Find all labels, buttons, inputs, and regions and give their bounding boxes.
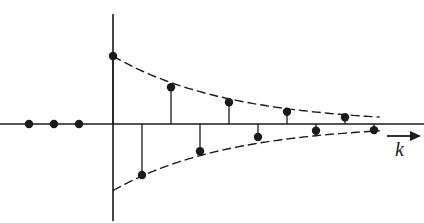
sample-dot bbox=[196, 147, 204, 155]
sample-dot bbox=[109, 52, 117, 60]
sample-dot bbox=[50, 120, 58, 128]
stem-sample bbox=[225, 98, 233, 124]
lower-envelope bbox=[113, 131, 380, 191]
stem-sample bbox=[167, 83, 175, 124]
stem-sample bbox=[370, 124, 378, 134]
stem-sample bbox=[341, 113, 349, 124]
stem-sample bbox=[50, 120, 58, 128]
stem-sample bbox=[312, 124, 320, 135]
sample-dot bbox=[75, 120, 83, 128]
axes bbox=[0, 14, 424, 221]
sample-dot bbox=[283, 108, 291, 116]
sample-dot bbox=[312, 127, 320, 135]
sample-dot bbox=[225, 98, 233, 106]
stem-sample bbox=[196, 124, 204, 155]
sample-dot bbox=[370, 126, 378, 134]
sample-dot bbox=[25, 120, 33, 128]
stems bbox=[25, 52, 378, 179]
axis-label-k: k bbox=[395, 139, 404, 159]
sample-dot bbox=[254, 133, 262, 141]
stem-sample bbox=[109, 52, 117, 124]
sample-dot bbox=[341, 113, 349, 121]
sample-dot bbox=[138, 171, 146, 179]
stem-sample bbox=[25, 120, 33, 128]
stem-sample bbox=[254, 124, 262, 141]
sample-dot bbox=[167, 83, 175, 91]
upper-envelope bbox=[113, 56, 380, 117]
stem-plot bbox=[0, 0, 424, 223]
k-direction-arrow-icon bbox=[387, 131, 421, 141]
stem-sample bbox=[138, 124, 146, 179]
stem-sample bbox=[283, 108, 291, 124]
stem-sample bbox=[75, 120, 83, 128]
